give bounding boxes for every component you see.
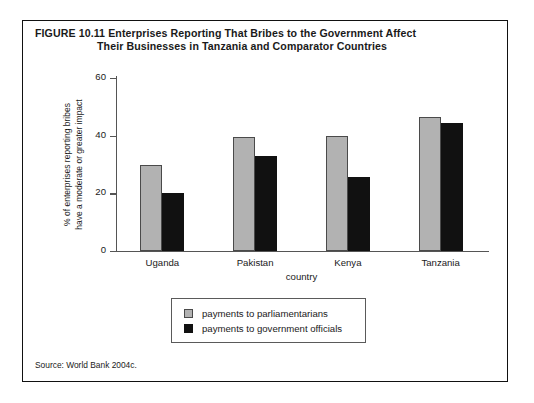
y-axis-tick: 0 xyxy=(110,251,116,252)
y-axis-tick-label: 60 xyxy=(95,71,106,82)
figure-frame: FIGURE 10.11 Enterprises Reporting That … xyxy=(22,20,508,382)
bar xyxy=(348,177,370,251)
x-axis-line xyxy=(116,251,489,252)
bar xyxy=(162,193,184,251)
bar xyxy=(140,165,162,252)
y-axis-title-line-2: have a moderate or greater impact xyxy=(74,99,86,229)
chart-legend: payments to parliamentarianspayments to … xyxy=(171,298,366,343)
x-axis-tick-label: Kenya xyxy=(302,257,395,268)
legend-label: payments to government officials xyxy=(202,323,342,334)
y-axis-tick-label: 40 xyxy=(95,129,106,140)
bar-chart: % of enterprises reporting bribes have a… xyxy=(23,21,509,383)
bar xyxy=(441,123,463,251)
legend-swatch xyxy=(184,309,193,318)
legend-swatch xyxy=(184,324,193,333)
y-axis-title-line-1: % of enterprises reporting bribes xyxy=(62,103,74,226)
plot-area xyxy=(116,78,487,251)
bar xyxy=(233,137,255,251)
y-axis-tick-label: 20 xyxy=(95,186,106,197)
bar xyxy=(255,156,277,251)
bar xyxy=(326,136,348,251)
legend-label: payments to parliamentarians xyxy=(202,308,328,319)
y-axis-title: % of enterprises reporting bribes have a… xyxy=(61,78,87,251)
legend-item: payments to parliamentarians xyxy=(184,308,355,319)
x-axis-tick-label: Pakistan xyxy=(209,257,302,268)
legend-item: payments to government officials xyxy=(184,323,355,334)
y-axis-tick-label: 0 xyxy=(101,244,106,255)
x-axis-title: country xyxy=(116,271,487,282)
bar xyxy=(419,117,441,251)
x-axis-tick-label: Uganda xyxy=(116,257,209,268)
source-note: Source: World Bank 2004c. xyxy=(35,360,137,370)
x-axis-tick-label: Tanzania xyxy=(394,257,487,268)
